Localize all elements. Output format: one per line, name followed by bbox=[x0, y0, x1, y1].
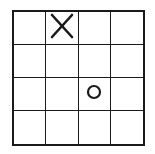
board-cell-r0-c0[interactable] bbox=[14, 12, 46, 45]
board-cell-r3-c3[interactable] bbox=[111, 111, 143, 144]
board-cell-r3-c1[interactable] bbox=[46, 111, 78, 144]
x-mark-icon bbox=[50, 13, 74, 43]
board-cell-r1-c2[interactable] bbox=[79, 45, 111, 78]
board-cell-r0-c3[interactable] bbox=[111, 12, 143, 45]
board-cell-r2-c3[interactable] bbox=[111, 78, 143, 111]
board-cell-r1-c1[interactable] bbox=[46, 45, 78, 78]
o-mark-icon bbox=[86, 84, 102, 104]
board-cell-r2-c1[interactable] bbox=[46, 78, 78, 111]
board-cell-r1-c0[interactable] bbox=[14, 45, 46, 78]
board-cell-r2-c2[interactable] bbox=[79, 78, 111, 111]
board-cell-r1-c3[interactable] bbox=[111, 45, 143, 78]
board-cell-r2-c0[interactable] bbox=[14, 78, 46, 111]
board-cell-r3-c0[interactable] bbox=[14, 111, 46, 144]
board-cell-r0-c1[interactable] bbox=[46, 12, 78, 45]
board-cell-r3-c2[interactable] bbox=[79, 111, 111, 144]
game-board bbox=[12, 10, 145, 146]
board-cell-r0-c2[interactable] bbox=[79, 12, 111, 45]
